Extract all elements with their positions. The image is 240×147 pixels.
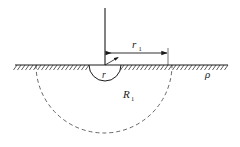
label-r1-base: r <box>132 38 137 50</box>
label-R1-subscript: 1 <box>131 95 134 102</box>
label-rho: ρ <box>204 68 210 80</box>
r-radius-arrow <box>105 58 118 66</box>
label-R1-base: R <box>122 88 130 100</box>
label-r1-subscript: 1 <box>139 45 142 52</box>
figure-root: r 1 r R 1 ρ <box>0 0 240 147</box>
diagram-canvas: r 1 r R 1 ρ <box>0 0 240 147</box>
label-r-base: r <box>102 70 106 80</box>
